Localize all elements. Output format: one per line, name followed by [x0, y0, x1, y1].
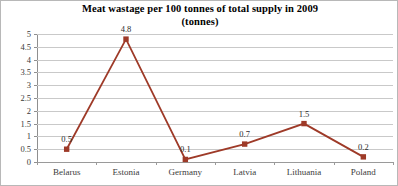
y-axis-tick-label: 1.5 — [1, 119, 31, 129]
y-axis-tick-mark — [34, 72, 37, 73]
data-point-label: 0.5 — [61, 134, 72, 144]
y-axis-tick-label: 0 — [1, 157, 31, 167]
x-axis-tick-mark — [96, 162, 97, 165]
y-axis-tick-mark — [34, 111, 37, 112]
y-axis-tick-label: 5 — [1, 29, 31, 39]
data-point-label: 0.7 — [239, 129, 250, 139]
data-point-label: 0.2 — [358, 142, 369, 152]
y-axis-tick-label: 2 — [1, 106, 31, 116]
y-axis-tick-label: 3.5 — [1, 67, 31, 77]
x-axis-tick-mark — [37, 162, 38, 165]
x-axis-tick-mark — [215, 162, 216, 165]
y-axis-tick-label: 3 — [1, 80, 31, 90]
y-axis-tick-label: 4 — [1, 55, 31, 65]
data-point-label: 1.5 — [299, 109, 310, 119]
data-point-marker — [361, 154, 366, 159]
x-axis-category-label: Lithuania — [287, 167, 322, 177]
y-axis-tick-mark — [34, 98, 37, 99]
x-axis-category-label: Poland — [351, 167, 376, 177]
x-axis-tick-mark — [156, 162, 157, 165]
data-point-marker — [64, 147, 69, 152]
y-axis-tick-mark — [34, 124, 37, 125]
x-axis-category-label: Germany — [169, 167, 203, 177]
y-axis-tick-mark — [34, 47, 37, 48]
y-axis-tick-label: 2.5 — [1, 93, 31, 103]
series-line-chart — [1, 1, 398, 186]
y-axis-tick-mark — [34, 85, 37, 86]
y-axis-tick-label: 0.5 — [1, 144, 31, 154]
x-axis-tick-mark — [393, 162, 394, 165]
x-axis-tick-mark — [334, 162, 335, 165]
x-axis-category-label: Estonia — [113, 167, 140, 177]
data-point-marker — [123, 36, 128, 41]
y-axis-tick-mark — [34, 60, 37, 61]
y-axis-tick-mark — [34, 34, 37, 35]
x-axis-tick-mark — [274, 162, 275, 165]
y-axis-tick-mark — [34, 149, 37, 150]
x-axis-category-label: Latvia — [233, 167, 256, 177]
x-axis-category-label: Belarus — [53, 167, 81, 177]
y-axis-tick-label: 1 — [1, 131, 31, 141]
y-axis-tick-label: 4.5 — [1, 42, 31, 52]
y-axis-tick-mark — [34, 136, 37, 137]
data-point-label: 4.8 — [121, 24, 132, 34]
data-point-marker — [242, 141, 247, 146]
data-point-label: 0.1 — [180, 144, 191, 154]
data-point-marker — [183, 157, 188, 162]
data-point-marker — [301, 121, 306, 126]
series-line — [67, 39, 364, 159]
chart-container: Meat wastage per 100 tonnes of total sup… — [0, 0, 398, 186]
